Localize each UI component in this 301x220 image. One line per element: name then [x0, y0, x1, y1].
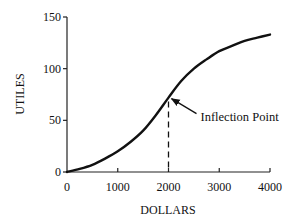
- y-axis-ticks: 050100150: [43, 10, 67, 179]
- x-axis-title: DOLLARS: [140, 203, 195, 217]
- inflection-arrow: [172, 99, 197, 114]
- x-tick-label: 4000: [258, 180, 282, 194]
- annotation-layer: Inflection Point: [169, 99, 280, 172]
- inflection-point-label: Inflection Point: [201, 110, 280, 124]
- x-tick-label: 1000: [106, 180, 130, 194]
- y-tick-label: 100: [43, 62, 61, 76]
- axes: [67, 17, 270, 172]
- x-tick-label: 0: [64, 180, 70, 194]
- y-axis-title: UTILES: [13, 73, 27, 114]
- utility-chart: 050100150 01000200030004000 Inflection P…: [0, 0, 301, 220]
- y-tick-label: 0: [55, 165, 61, 179]
- y-tick-label: 50: [49, 113, 61, 127]
- x-tick-label: 2000: [157, 180, 181, 194]
- y-tick-label: 150: [43, 10, 61, 24]
- x-tick-label: 3000: [207, 180, 231, 194]
